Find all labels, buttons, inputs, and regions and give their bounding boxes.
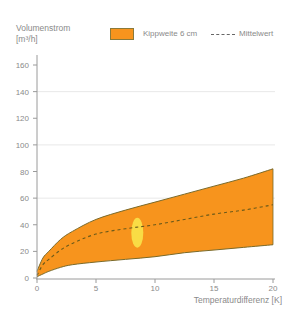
y-tick-label: 40 (20, 221, 29, 230)
y-tick-label: 0 (25, 274, 30, 283)
y-tick-label: 60 (20, 194, 29, 203)
x-tick-label: 20 (269, 284, 278, 293)
y-tick-label: 160 (16, 61, 30, 70)
band-area (37, 169, 273, 277)
y-tick-label: 120 (16, 114, 30, 123)
highlight-ellipse (131, 218, 143, 248)
y-tick-label: 100 (16, 141, 30, 150)
x-tick-label: 10 (151, 284, 160, 293)
y-tick-label: 80 (20, 168, 29, 177)
x-axis-label: Temperaturdifferenz [K] (194, 295, 282, 305)
y-tick-label: 140 (16, 88, 30, 97)
chart-plot-area: 02040608010012014016005101520 (0, 0, 295, 319)
x-tick-label: 0 (35, 284, 40, 293)
x-tick-label: 5 (94, 284, 99, 293)
x-tick-label: 15 (210, 284, 219, 293)
y-tick-label: 20 (20, 247, 29, 256)
